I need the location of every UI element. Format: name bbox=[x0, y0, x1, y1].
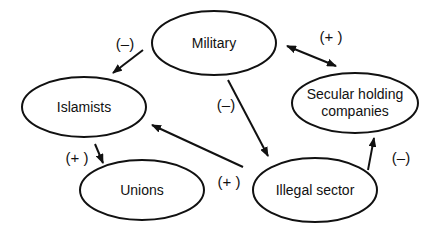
arrow-icon bbox=[368, 138, 374, 170]
arrow-icon bbox=[95, 144, 103, 163]
edge-sign-label: (–) bbox=[116, 35, 134, 52]
arrow-icon bbox=[113, 50, 143, 73]
node-label: Unions bbox=[120, 182, 164, 198]
node-secular-holding-companies: Secular holding companies bbox=[292, 73, 418, 133]
edge-sign-label: (+ ) bbox=[320, 28, 343, 45]
edge-illegal-to-secular: (–) bbox=[368, 138, 410, 170]
double-arrow-icon bbox=[287, 46, 336, 66]
edge-sign-label: (–) bbox=[217, 96, 235, 113]
edge-sign-label: (+ ) bbox=[66, 149, 89, 166]
edge-islamists-to-unions: (+ ) bbox=[66, 144, 103, 166]
node-unions: Unions bbox=[80, 160, 204, 220]
node-label-line1: Secular holding bbox=[307, 86, 404, 102]
edge-military-to-illegal: (–) bbox=[217, 80, 268, 156]
diagram-canvas: (–) (+ ) (–) (+ ) (+ ) (–) Military Isla… bbox=[0, 0, 437, 235]
edge-sign-label: (+ ) bbox=[218, 173, 241, 190]
node-illegal-sector: Illegal sector bbox=[253, 158, 377, 222]
edge-military-secular-bidirectional: (+ ) bbox=[287, 28, 342, 66]
node-islamists: Islamists bbox=[22, 77, 146, 137]
edge-military-to-islamists: (–) bbox=[113, 35, 143, 73]
node-label: Illegal sector bbox=[276, 182, 355, 198]
arrow-icon bbox=[228, 80, 268, 156]
node-label: Islamists bbox=[57, 99, 111, 115]
node-military: Military bbox=[152, 11, 276, 75]
node-label-line2: companies bbox=[321, 103, 389, 119]
node-label: Military bbox=[192, 35, 236, 51]
edge-sign-label: (–) bbox=[392, 149, 410, 166]
arrow-icon bbox=[152, 125, 243, 167]
